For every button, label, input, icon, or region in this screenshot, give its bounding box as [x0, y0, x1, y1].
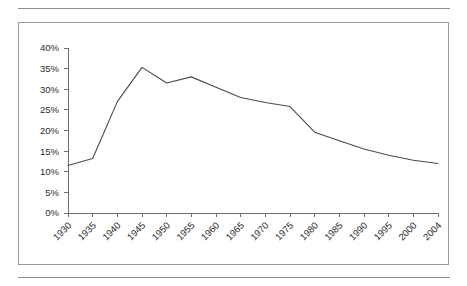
top-horizontal-rule	[18, 8, 450, 9]
x-tick-label: 1995	[371, 220, 394, 243]
x-tick-label: 1970	[248, 220, 271, 243]
figure-page: 0%5%10%15%20%25%30%35%40% 19301935194019…	[0, 0, 467, 286]
y-axis-tick-marks	[64, 48, 68, 213]
y-tick-label: 30%	[40, 84, 60, 95]
x-tick-label: 1945	[125, 220, 148, 243]
y-tick-label: 5%	[45, 187, 59, 198]
y-tick-label: 10%	[40, 166, 60, 177]
x-tick-label: 1940	[100, 220, 123, 243]
x-tick-label: 1985	[322, 220, 345, 243]
x-tick-label: 1990	[347, 220, 370, 243]
y-tick-label: 35%	[40, 63, 60, 74]
x-tick-label: 1960	[199, 220, 222, 243]
x-axis-tick-labels: 1930193519401945195019551960196519701975…	[51, 220, 444, 243]
x-tick-label: 1930	[51, 220, 74, 243]
y-tick-label: 15%	[40, 146, 60, 157]
x-tick-label: 2004	[421, 220, 444, 243]
x-tick-label: 1935	[75, 220, 98, 243]
y-tick-label: 0%	[45, 207, 59, 218]
bottom-horizontal-rule	[18, 277, 450, 278]
y-tick-label: 20%	[40, 125, 60, 136]
line-chart: 0%5%10%15%20%25%30%35%40% 19301935194019…	[19, 23, 450, 266]
data-series-line	[68, 67, 438, 165]
chart-figure-box: 0%5%10%15%20%25%30%35%40% 19301935194019…	[18, 22, 449, 265]
y-axis-tick-labels: 0%5%10%15%20%25%30%35%40%	[40, 42, 60, 218]
x-tick-label: 1975	[273, 220, 296, 243]
x-axis-tick-marks	[68, 213, 438, 217]
x-tick-label: 1950	[149, 220, 172, 243]
chart-axes	[68, 48, 438, 213]
x-tick-label: 1965	[223, 220, 246, 243]
y-tick-label: 25%	[40, 104, 60, 115]
x-tick-label: 2000	[396, 220, 419, 243]
x-tick-label: 1980	[297, 220, 320, 243]
x-tick-label: 1955	[174, 220, 197, 243]
y-tick-label: 40%	[40, 42, 60, 53]
